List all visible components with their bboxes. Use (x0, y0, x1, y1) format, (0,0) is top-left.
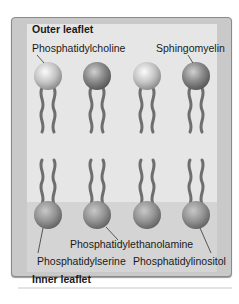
leader-line (37, 55, 44, 63)
inner-leaflet-label: Inner leaflet (32, 273, 91, 285)
phosphatidylserine-label: Phosphatidylserine (37, 255, 126, 267)
phosphatidylethanolamine-head-icon (83, 201, 111, 229)
phosphatidylcholine-head-icon (133, 62, 161, 90)
inner-tails (41, 160, 203, 204)
sphingomyelin-head-icon (83, 62, 111, 90)
sphingomyelin-label: Sphingomyelin (156, 42, 225, 54)
phosphatidylinositol-head-icon (182, 201, 210, 229)
phosphatidylserine-head-icon (34, 201, 62, 229)
phosphatidylethanolamine-label: Phosphatidylethanolamine (70, 238, 193, 250)
leader-line (200, 228, 211, 253)
leader-line (188, 55, 193, 63)
leader-line (38, 228, 43, 253)
outer-leaflet-label: Outer leaflet (32, 23, 93, 35)
sphingomyelin-head-icon (182, 62, 210, 90)
phosphatidylcholine-label: Phosphatidylcholine (32, 42, 125, 54)
phosphatidylinositol-label: Phosphatidylinositol (133, 255, 226, 267)
outer-tails (41, 88, 203, 132)
phosphatidylcholine-head-icon (34, 62, 62, 90)
phosphatidylserine-head-icon (133, 201, 161, 229)
divider (18, 287, 232, 289)
